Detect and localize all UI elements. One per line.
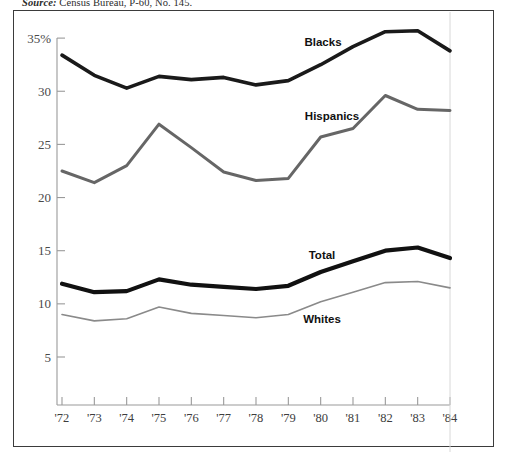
x-tick-label: '80 [313, 411, 328, 425]
x-tick-label: '78 [249, 411, 264, 425]
x-tick-label: '75 [152, 411, 167, 425]
series-label-total: Total [309, 249, 336, 261]
x-tick-label: '81 [346, 411, 361, 425]
y-tick-label: 25 [38, 137, 51, 152]
x-tick-label: '83 [410, 411, 425, 425]
y-tick-label: 10 [38, 296, 51, 311]
y-tick-label: 20 [38, 190, 51, 205]
x-tick-label: '82 [378, 411, 393, 425]
series-label-hispanics: Hispanics [305, 110, 359, 122]
y-tick-label: 35% [27, 31, 51, 46]
x-axis: '72'73'74'75'76'77'78'79'80'81'82'83'84 [55, 12, 459, 452]
y-tick-label: 15 [38, 243, 51, 258]
series-label-blacks: Blacks [304, 36, 341, 48]
series-line-blacks [62, 31, 450, 88]
series-line-hispanics [62, 96, 450, 183]
x-tick-label: '77 [216, 411, 231, 425]
series-line-total [62, 248, 450, 293]
series-label-whites: Whites [303, 313, 341, 325]
x-tick-label: '73 [87, 411, 102, 425]
x-tick-label: '74 [119, 411, 135, 425]
x-tick-label: '72 [55, 411, 70, 425]
y-tick-label: 5 [45, 350, 52, 365]
series-lines [62, 31, 450, 321]
chart-plot-area: 5101520253035% '72'73'74'75'76'77'78'79'… [0, 0, 506, 455]
x-tick-label: '79 [281, 411, 296, 425]
line-chart: 5101520253035% '72'73'74'75'76'77'78'79'… [0, 0, 506, 455]
series-labels: BlacksHispanicsTotalWhites [303, 36, 359, 325]
y-axis: 5101520253035% [27, 31, 65, 405]
y-tick-label: 30 [38, 84, 51, 99]
x-tick-label: '76 [184, 411, 199, 425]
